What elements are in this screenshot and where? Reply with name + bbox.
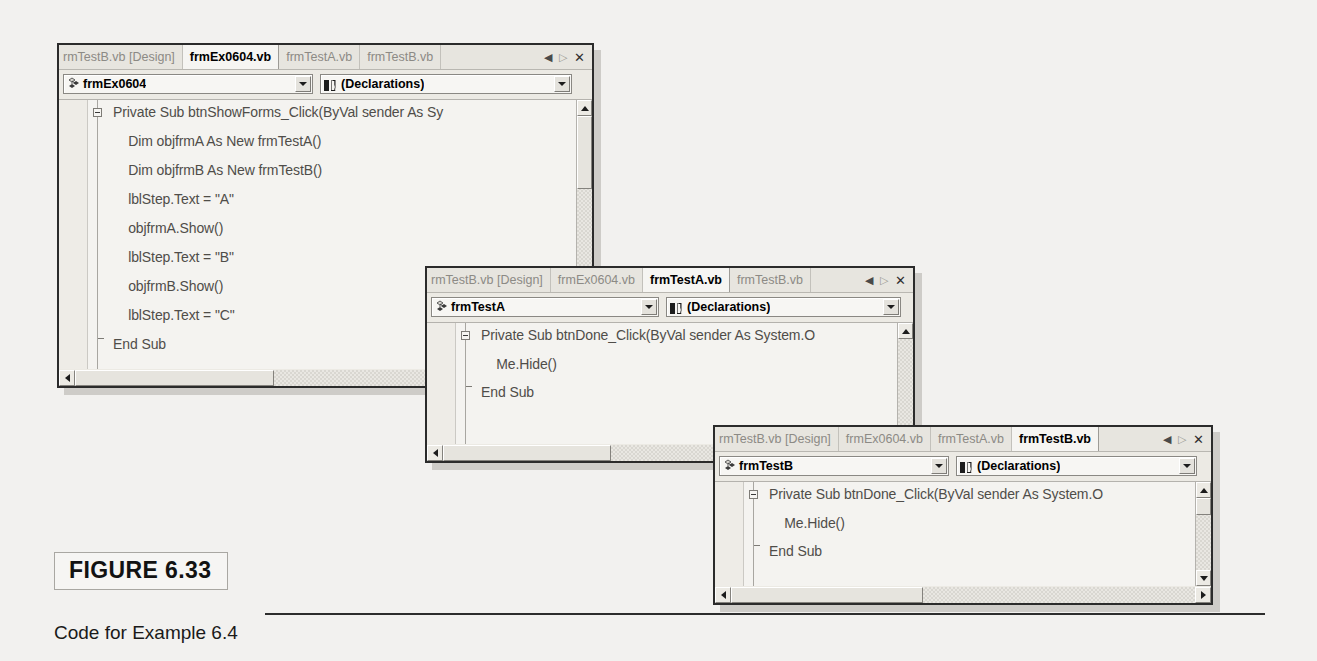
horizontal-scroll-thumb[interactable]: [731, 587, 923, 603]
outline-bar: [465, 323, 466, 444]
outline-end-tick: [466, 386, 472, 387]
triangle-left-icon: [65, 374, 70, 382]
scroll-up-button[interactable]: [1196, 482, 1211, 498]
member-combo-box[interactable]: (Declarations): [666, 297, 901, 317]
tab-frmex0604[interactable]: frmEx0604.vb: [839, 427, 931, 451]
scroll-right-button[interactable]: [1195, 587, 1211, 603]
class-combo-dropdown-button[interactable]: [931, 458, 947, 474]
triangle-right-icon: [1201, 591, 1206, 599]
triangle-left-icon: [721, 591, 726, 599]
tab-frmtestb-design[interactable]: rmTestB.vb [Design]: [715, 427, 839, 451]
tab-next-icon[interactable]: ▷: [559, 52, 567, 63]
class-combo-dropdown-button[interactable]: [641, 299, 657, 315]
member-combo-box[interactable]: (Declarations): [320, 74, 572, 94]
tab-frmtestb-design[interactable]: rmTestB.vb [Design]: [427, 268, 551, 292]
scroll-down-button[interactable]: [1196, 570, 1211, 586]
member-combo-dropdown-button[interactable]: [554, 76, 570, 92]
class-combo-box[interactable]: frmEx0604: [63, 74, 313, 94]
member-combo-value: (Declarations): [974, 459, 1060, 473]
tab-next-icon[interactable]: ▷: [880, 275, 888, 286]
tab-frmtestb[interactable]: frmTestB.vb: [730, 268, 811, 292]
scroll-up-button[interactable]: [898, 323, 913, 339]
vertical-scrollbar[interactable]: [1195, 482, 1211, 586]
horizontal-scroll-track[interactable]: [923, 587, 1195, 603]
scroll-left-button[interactable]: [59, 370, 75, 386]
tab-frmtestb[interactable]: frmTestB.vb: [360, 45, 441, 69]
tab-strip[interactable]: rmTestB.vb [Design] frmEx0604.vb frmTest…: [59, 45, 592, 70]
triangle-left-icon: [433, 449, 438, 457]
tab-frmtestb[interactable]: frmTestB.vb: [1012, 427, 1099, 451]
collapse-region-toggle[interactable]: [93, 108, 102, 117]
tab-navigation[interactable]: ◀ ▷ ✕: [1154, 427, 1211, 451]
code-line: Private Sub btnDone_Click(ByVal sender A…: [769, 486, 1103, 502]
member-combo-dropdown-button[interactable]: [1179, 458, 1195, 474]
figure-number-label: FIGURE 6.33: [69, 557, 211, 583]
class-combo-box[interactable]: frmTestA: [431, 297, 659, 317]
close-icon[interactable]: ✕: [1193, 433, 1204, 446]
scroll-left-button[interactable]: [427, 445, 443, 461]
tab-prev-icon[interactable]: ◀: [544, 52, 552, 63]
collapse-region-toggle[interactable]: [749, 490, 758, 499]
tab-frmtesta[interactable]: frmTestA.vb: [931, 427, 1012, 451]
figure-badge: FIGURE 6.33: [54, 552, 228, 590]
tab-frmtesta[interactable]: frmTestA.vb: [643, 268, 730, 292]
code-line: Dim objfrmB As New frmTestB(): [113, 162, 322, 178]
declarations-book-icon: [959, 460, 973, 473]
collapse-region-toggle[interactable]: [461, 331, 470, 340]
code-line: End Sub: [481, 384, 534, 400]
code-line: End Sub: [769, 543, 822, 559]
outline-end-tick: [754, 545, 760, 546]
close-icon[interactable]: ✕: [895, 274, 906, 287]
editor-combo-row: frmTestA (Declarations): [427, 293, 913, 321]
triangle-up-icon: [902, 329, 910, 334]
code-line: Dim objfrmA As New frmTestA(): [113, 133, 321, 149]
chevron-down-icon: [1183, 464, 1191, 468]
code-line: lblStep.Text = "B": [113, 249, 234, 265]
outline-end-tick: [98, 338, 104, 339]
figure-caption: Code for Example 6.4: [54, 622, 238, 644]
code-window-frmtestb[interactable]: rmTestB.vb [Design] frmEx0604.vb frmTest…: [713, 425, 1213, 605]
code-line: Me.Hide(): [481, 356, 557, 372]
close-icon[interactable]: ✕: [574, 51, 585, 64]
member-combo-box[interactable]: (Declarations): [956, 456, 1197, 476]
object-class-icon: [434, 300, 448, 315]
tab-strip[interactable]: rmTestB.vb [Design] frmEx0604.vb frmTest…: [715, 427, 1211, 452]
scroll-up-button[interactable]: [577, 100, 592, 116]
code-editor-pane[interactable]: Private Sub btnDone_Click(ByVal sender A…: [715, 481, 1211, 586]
tab-prev-icon[interactable]: ◀: [865, 275, 873, 286]
horizontal-scrollbar[interactable]: [715, 587, 1211, 603]
code-line: End Sub: [113, 336, 166, 352]
chevron-down-icon: [645, 305, 653, 309]
vertical-scroll-thumb[interactable]: [1196, 498, 1211, 515]
tab-frmtestb-design[interactable]: rmTestB.vb [Design]: [59, 45, 183, 69]
chevron-down-icon: [935, 464, 943, 468]
code-line: Private Sub btnDone_Click(ByVal sender A…: [481, 327, 815, 343]
member-combo-value: (Declarations): [338, 77, 424, 91]
tab-next-icon[interactable]: ▷: [1178, 434, 1186, 445]
code-line: objfrmB.Show(): [113, 278, 223, 294]
tab-navigation[interactable]: ◀ ▷ ✕: [535, 45, 592, 69]
tab-prev-icon[interactable]: ◀: [1163, 434, 1171, 445]
code-line: Private Sub btnShowForms_Click(ByVal sen…: [113, 104, 443, 120]
code-line: objfrmA.Show(): [113, 220, 223, 236]
outline-bar: [97, 100, 98, 369]
tab-frmex0604[interactable]: frmEx0604.vb: [183, 45, 279, 69]
class-combo-dropdown-button[interactable]: [295, 76, 311, 92]
chevron-down-icon: [558, 82, 566, 86]
class-combo-box[interactable]: frmTestB: [719, 456, 949, 476]
figure-rule: [265, 613, 1265, 615]
tab-strip[interactable]: rmTestB.vb [Design] frmEx0604.vb frmTest…: [427, 268, 913, 293]
editor-combo-row: frmEx0604 (Declarations): [59, 70, 592, 98]
code-line: Me.Hide(): [769, 515, 845, 531]
tab-frmtesta[interactable]: frmTestA.vb: [279, 45, 360, 69]
tab-navigation[interactable]: ◀ ▷ ✕: [856, 268, 913, 292]
object-class-icon: [722, 459, 736, 474]
member-combo-value: (Declarations): [684, 300, 770, 314]
horizontal-scroll-thumb[interactable]: [75, 370, 274, 386]
chevron-down-icon: [887, 305, 895, 309]
horizontal-scroll-thumb[interactable]: [443, 445, 611, 461]
tab-frmex0604[interactable]: frmEx0604.vb: [551, 268, 643, 292]
member-combo-dropdown-button[interactable]: [883, 299, 899, 315]
vertical-scroll-thumb[interactable]: [577, 116, 592, 189]
scroll-left-button[interactable]: [715, 587, 731, 603]
